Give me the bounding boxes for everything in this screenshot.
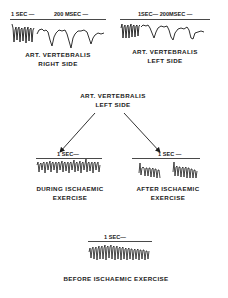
panel-subtitle-top-right: LEFT SIDE	[115, 57, 215, 64]
panel-subtitle-during: EXERCISE	[20, 194, 120, 201]
scale-label-top-right: 1SEC— 200MSEC —	[138, 11, 192, 17]
scale-label-mid-left: 1 SEC—	[57, 151, 79, 157]
diagram-graphics	[0, 0, 228, 298]
scale-label-200msec-top-left: 200 MSEC —	[54, 11, 88, 17]
waveform-top-left-expanded	[37, 29, 104, 48]
panel-title-top-left: ART. VERTEBRALIS	[8, 51, 108, 58]
waveform-top-right-compressed	[121, 24, 140, 38]
center-subtitle: LEFT SIDE	[60, 101, 166, 108]
scale-label-mid-right: 1 SEC —	[158, 151, 181, 157]
panel-title-during: DURING ISCHAEMIC	[20, 185, 120, 192]
panel-title-after: AFTER ISCHAEMIC	[118, 185, 218, 192]
arrow-to-after	[124, 113, 160, 152]
waveform-top-left-compressed	[12, 24, 34, 43]
panel-title-top-right: ART. VERTEBRALIS	[115, 48, 215, 55]
waveform-after-exercise-1	[139, 163, 160, 178]
scale-label-1sec-top-left: 1 SEC —	[11, 11, 34, 17]
panel-subtitle-top-left: RIGHT SIDE	[8, 60, 108, 67]
panel-title-before: BEFORE ISCHAEMIC EXERCISE	[54, 275, 178, 282]
center-title: ART. VERTEBRALIS	[60, 92, 166, 99]
waveform-before-exercise	[89, 245, 149, 260]
waveform-after-exercise-2	[173, 162, 197, 178]
arrow-to-during	[60, 113, 95, 152]
waveform-during-exercise	[37, 159, 100, 173]
waveform-top-right-expanded	[141, 25, 204, 40]
panel-subtitle-after: EXERCISE	[118, 194, 218, 201]
scale-label-bottom: 1 SEC—	[104, 234, 126, 240]
